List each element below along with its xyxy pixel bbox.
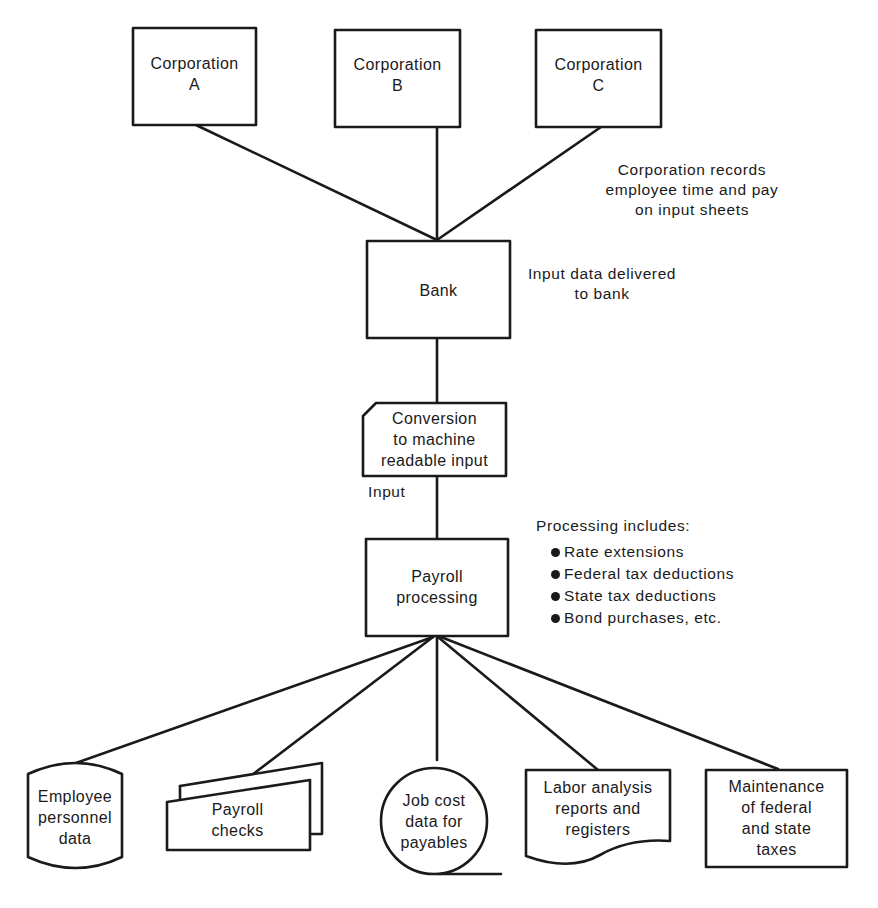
bank-delivery-note: Input data delivered to bank bbox=[517, 264, 687, 304]
payroll-checks-label: Payroll checks bbox=[180, 799, 295, 841]
processing-items-list: Rate extensions Federal tax deductions S… bbox=[550, 541, 734, 629]
processing-item: Federal tax deductions bbox=[550, 563, 734, 585]
corp-c-label: Corporation C bbox=[536, 54, 661, 96]
edge-payroll-employee-data bbox=[76, 637, 433, 763]
edge-payroll-labor bbox=[438, 637, 598, 770]
edge-corp-c-bank bbox=[437, 127, 601, 240]
processing-includes-title: Processing includes: bbox=[536, 516, 690, 536]
bank-label: Bank bbox=[367, 280, 510, 301]
corp-b-label: Corporation B bbox=[335, 54, 460, 96]
corp-records-note: Corporation records employee time and pa… bbox=[592, 160, 792, 220]
labor-analysis-label: Labor analysis reports and registers bbox=[526, 777, 670, 840]
job-cost-label: Job cost data for payables bbox=[384, 790, 484, 853]
edge-corp-a-bank bbox=[196, 125, 437, 240]
payroll-label: Payroll processing bbox=[366, 566, 508, 608]
edge-payroll-checks bbox=[252, 637, 433, 775]
edge-payroll-tax bbox=[441, 637, 778, 769]
processing-item: Bond purchases, etc. bbox=[550, 607, 734, 629]
tax-maintenance-label: Maintenance of federal and state taxes bbox=[706, 776, 847, 860]
processing-item: State tax deductions bbox=[550, 585, 734, 607]
conversion-label: Conversion to machine readable input bbox=[363, 408, 506, 471]
employee-data-label: Employee personnel data bbox=[28, 786, 122, 849]
processing-item: Rate extensions bbox=[550, 541, 734, 563]
input-edge-label: Input bbox=[368, 482, 405, 502]
corp-a-label: Corporation A bbox=[133, 53, 256, 95]
